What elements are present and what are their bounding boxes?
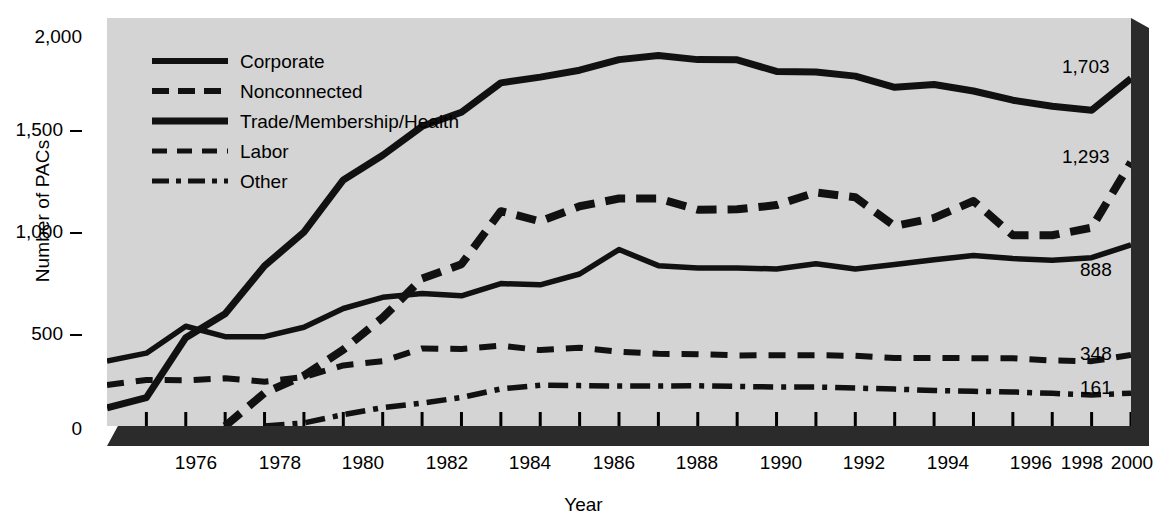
y-tick-text: 0 xyxy=(71,418,82,439)
y-tick-label-1000: 1,000 xyxy=(15,221,82,243)
y-tick-text: 2,000 xyxy=(34,26,82,47)
chart-figure: Number of PACs 2,000 1,500 1,000 500 0 C… xyxy=(0,0,1167,531)
x-tick-label-1994: 1994 xyxy=(913,452,983,474)
legend-swatch-solid-thick xyxy=(152,54,228,68)
x-tick-label-2000: 2000 xyxy=(1097,452,1167,474)
y-tick-label-1500: 1,500 xyxy=(15,119,82,141)
series-line-labor xyxy=(107,346,1131,385)
y-tick-mark xyxy=(70,130,82,132)
end-label-nonconnected: 1,293 xyxy=(1062,146,1110,168)
legend-swatch-solid-medium xyxy=(152,114,228,128)
legend-label: Other xyxy=(240,172,288,191)
legend-item-corporate: Corporate xyxy=(152,46,492,76)
chart-legend: Corporate Nonconnected Trade/Membership/… xyxy=(152,46,492,196)
legend-label: Nonconnected xyxy=(240,82,363,101)
legend-item-labor: Labor xyxy=(152,136,492,166)
x-tick-label-1982: 1982 xyxy=(412,452,482,474)
legend-item-trade-membership-health: Trade/Membership/Health xyxy=(152,106,492,136)
legend-swatch-dashed-medium xyxy=(152,144,228,158)
y-tick-label-0: 0 xyxy=(71,418,82,440)
y-tick-mark xyxy=(70,232,82,234)
x-axis-title: Year xyxy=(0,494,1167,516)
y-tick-text: 1,500 xyxy=(15,119,63,140)
y-tick-label-2000: 2,000 xyxy=(34,26,82,48)
x-tick-label-1984: 1984 xyxy=(495,452,565,474)
y-tick-text: 1,000 xyxy=(15,221,63,242)
x-tick-label-1976: 1976 xyxy=(161,452,231,474)
legend-label: Corporate xyxy=(240,52,325,71)
legend-label: Labor xyxy=(240,142,289,161)
y-tick-mark xyxy=(70,334,82,336)
x-tick-label-1980: 1980 xyxy=(328,452,398,474)
legend-swatch-dashed-thick xyxy=(152,84,228,98)
x-tick-label-1986: 1986 xyxy=(579,452,649,474)
plot-shadow-right xyxy=(1131,18,1149,444)
end-label-corporate: 1,703 xyxy=(1062,56,1110,78)
legend-swatch-dash-dot xyxy=(152,174,228,188)
x-tick-label-1990: 1990 xyxy=(746,452,816,474)
legend-item-other: Other xyxy=(152,166,492,196)
y-tick-label-500: 500 xyxy=(31,323,82,345)
plot-shadow-bottom xyxy=(107,424,1149,446)
y-tick-text: 500 xyxy=(31,323,63,344)
legend-item-nonconnected: Nonconnected xyxy=(152,76,492,106)
legend-label: Trade/Membership/Health xyxy=(240,112,459,131)
end-label-other: 161 xyxy=(1080,377,1112,399)
x-tick-label-1988: 1988 xyxy=(662,452,732,474)
x-tick-label-1992: 1992 xyxy=(829,452,899,474)
series-line-trade-membership-health xyxy=(107,245,1131,361)
x-tick-label-1978: 1978 xyxy=(245,452,315,474)
end-label-trade: 888 xyxy=(1080,259,1112,281)
end-label-labor: 348 xyxy=(1080,343,1112,365)
